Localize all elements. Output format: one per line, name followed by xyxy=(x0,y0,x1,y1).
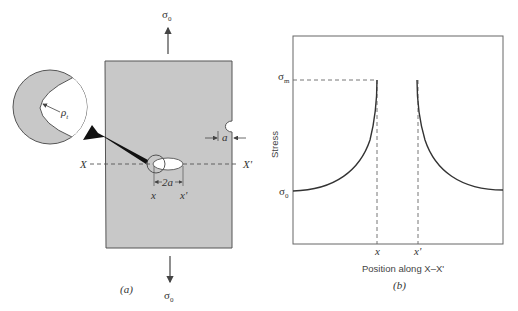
top-load-label: σ0 xyxy=(162,8,172,23)
crack-tip-inset: ρt xyxy=(13,68,90,146)
stress-curve-left xyxy=(293,80,377,191)
panel-b: σm σ0 Stress x x' Position along X–X' (b… xyxy=(269,36,503,292)
x-axis-label: Position along X–X' xyxy=(362,263,444,274)
crack-left-label: x xyxy=(150,189,156,201)
sigma-m-label: σm xyxy=(278,70,290,85)
crack-length-label: 2a xyxy=(162,176,174,188)
figure-canvas: σ0 a X X' 2a x x' ρt xyxy=(0,0,518,311)
sigma-0-label: σ0 xyxy=(279,185,289,200)
bottom-load-label: σ0 xyxy=(164,289,174,304)
axis-left-label: X xyxy=(79,158,88,170)
x-tick-right: x' xyxy=(413,245,422,257)
y-axis-label: Stress xyxy=(269,131,280,158)
axis-right-label: X' xyxy=(242,158,253,170)
x-tick-left: x xyxy=(374,245,380,257)
panel-a: σ0 a X X' 2a x x' ρt xyxy=(13,8,253,304)
surface-crack-label: a xyxy=(222,131,228,143)
crack-right-label: x' xyxy=(179,189,188,201)
caption-a: (a) xyxy=(120,283,133,296)
plot-frame xyxy=(293,36,503,244)
plate xyxy=(105,61,232,248)
stress-curve-right xyxy=(417,80,503,190)
caption-b: (b) xyxy=(393,279,406,292)
internal-crack xyxy=(153,158,183,170)
